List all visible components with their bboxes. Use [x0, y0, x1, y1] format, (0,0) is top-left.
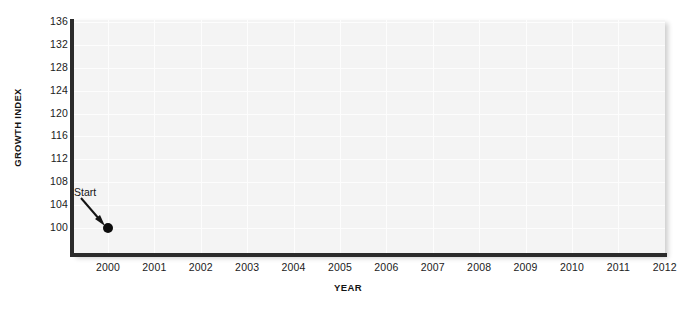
- x-tick-label: 2003: [224, 261, 270, 273]
- annotation-start-label: Start: [74, 186, 96, 198]
- gridline-horizontal: [73, 68, 665, 69]
- x-tick-label: 2009: [503, 261, 549, 273]
- y-axis-ticks: 136132128124120116112108104100: [0, 0, 68, 309]
- gridline-vertical: [572, 20, 573, 255]
- data-point-2000: [103, 223, 113, 233]
- x-tick-label: 2007: [410, 261, 456, 273]
- gridline-horizontal: [73, 205, 665, 206]
- x-tick-label: 2012: [642, 261, 688, 273]
- x-tick-label: 2004: [271, 261, 317, 273]
- gridline-vertical: [386, 20, 387, 255]
- gridline-vertical: [340, 20, 341, 255]
- plot-area: [73, 20, 665, 255]
- gridline-vertical: [294, 20, 295, 255]
- gridline-vertical: [479, 20, 480, 255]
- x-axis-title: YEAR: [0, 282, 696, 293]
- y-tick-label: 132: [4, 39, 68, 50]
- plot-gridlines: [73, 20, 665, 255]
- y-tick-label: 136: [4, 16, 68, 27]
- gridline-vertical: [201, 20, 202, 255]
- y-axis-title: GROWTH INDEX: [12, 68, 23, 188]
- gridline-vertical: [618, 20, 619, 255]
- x-tick-label: 2002: [178, 261, 224, 273]
- gridline-horizontal: [73, 159, 665, 160]
- x-tick-label: 2011: [595, 261, 641, 273]
- x-tick-label: 2005: [317, 261, 363, 273]
- x-tick-label: 2001: [131, 261, 177, 273]
- gridline-horizontal: [73, 22, 665, 23]
- y-axis-spine: [70, 19, 74, 257]
- gridline-vertical: [247, 20, 248, 255]
- x-tick-label: 2008: [456, 261, 502, 273]
- x-tick-label: 2006: [363, 261, 409, 273]
- gridline-horizontal: [73, 45, 665, 46]
- gridline-horizontal: [73, 114, 665, 115]
- gridline-horizontal: [73, 91, 665, 92]
- gridline-vertical: [526, 20, 527, 255]
- gridline-horizontal: [73, 228, 665, 229]
- growth-index-chart: 136132128124120116112108104100 GROWTH IN…: [0, 0, 696, 309]
- x-tick-label: 2000: [85, 261, 131, 273]
- y-tick-label: 100: [4, 222, 68, 233]
- x-tick-label: 2010: [549, 261, 595, 273]
- x-axis-spine: [70, 253, 667, 257]
- gridline-vertical: [433, 20, 434, 255]
- gridline-horizontal: [73, 182, 665, 183]
- gridline-vertical: [108, 20, 109, 255]
- gridline-vertical: [154, 20, 155, 255]
- y-tick-label: 104: [4, 199, 68, 210]
- gridline-horizontal: [73, 136, 665, 137]
